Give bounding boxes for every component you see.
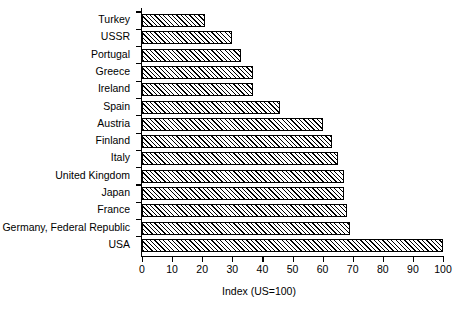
y-axis-tick-label: Austria <box>0 117 134 130</box>
y-axis-tick <box>136 29 141 30</box>
y-axis-tick-label: Greece <box>0 65 134 78</box>
bar <box>142 152 338 165</box>
x-axis-tick-label: 30 <box>217 263 247 276</box>
y-axis-tick <box>136 219 141 220</box>
x-axis-tick-label: 90 <box>398 263 428 276</box>
bar <box>142 204 347 217</box>
y-axis-tick <box>136 46 141 47</box>
x-axis-tick <box>383 257 384 262</box>
bar <box>142 170 344 183</box>
x-axis-tick <box>172 257 173 262</box>
x-axis-tick <box>443 257 444 262</box>
y-axis-tick-label: USA <box>0 238 134 251</box>
bar <box>142 101 280 114</box>
y-axis-tick <box>136 150 141 151</box>
x-axis-tick-label: 70 <box>338 263 368 276</box>
x-axis-tick <box>262 257 263 262</box>
y-axis-line <box>141 8 142 257</box>
y-axis-tick <box>136 167 141 168</box>
x-axis-tick-label: 40 <box>247 263 277 276</box>
bar <box>142 222 350 235</box>
y-axis-tick-label: Turkey <box>0 13 134 26</box>
x-axis-tick <box>293 257 294 262</box>
bar <box>142 66 253 79</box>
y-axis-tick <box>136 81 141 82</box>
y-axis-tick <box>136 11 141 12</box>
y-axis-tick-label: United Kingdom <box>0 169 134 182</box>
y-axis-tick <box>136 236 141 237</box>
bar <box>142 118 323 131</box>
bar <box>142 83 253 96</box>
x-axis-title: Index (US=100) <box>0 285 468 297</box>
x-axis-tick <box>323 257 324 262</box>
y-axis-tick-label: Japan <box>0 186 134 199</box>
bar <box>142 14 205 27</box>
x-axis-tick-label: 20 <box>187 263 217 276</box>
y-axis-tick-label: Portugal <box>0 48 134 61</box>
x-axis-tick <box>413 257 414 262</box>
x-axis-tick-label: 60 <box>308 263 338 276</box>
y-axis-tick <box>136 202 141 203</box>
y-axis-tick-label: Germany, Federal Republic <box>0 221 134 234</box>
y-axis-tick <box>136 63 141 64</box>
x-axis-tick-label: 50 <box>278 263 308 276</box>
y-axis-tick-label: USSR <box>0 30 134 43</box>
x-axis-tick <box>202 257 203 262</box>
x-axis-tick-label: 0 <box>127 263 157 276</box>
y-axis-tick-label: France <box>0 203 134 216</box>
x-axis-tick-label: 80 <box>368 263 398 276</box>
bar <box>142 239 443 252</box>
x-axis-tick <box>353 257 354 262</box>
bar <box>142 135 332 148</box>
y-axis-tick-label: Finland <box>0 134 134 147</box>
y-axis-tick-label: Spain <box>0 100 134 113</box>
y-axis-tick-label: Ireland <box>0 82 134 95</box>
bar <box>142 49 241 62</box>
x-axis-tick <box>142 257 143 262</box>
plot-area <box>142 8 443 256</box>
y-axis-tick <box>136 98 141 99</box>
y-axis-tick <box>136 115 141 116</box>
bar <box>142 187 344 200</box>
y-axis-tick <box>136 184 141 185</box>
x-axis-tick <box>232 257 233 262</box>
bar <box>142 31 232 44</box>
x-axis-title-label: Index (US=100) <box>222 285 296 297</box>
y-axis-tick <box>136 133 141 134</box>
bar-chart: TurkeyUSSRPortugalGreeceIrelandSpainAust… <box>0 0 468 312</box>
x-axis-tick-label: 100 <box>428 263 458 276</box>
x-axis-tick-label: 10 <box>157 263 187 276</box>
y-axis-tick-label: Italy <box>0 151 134 164</box>
